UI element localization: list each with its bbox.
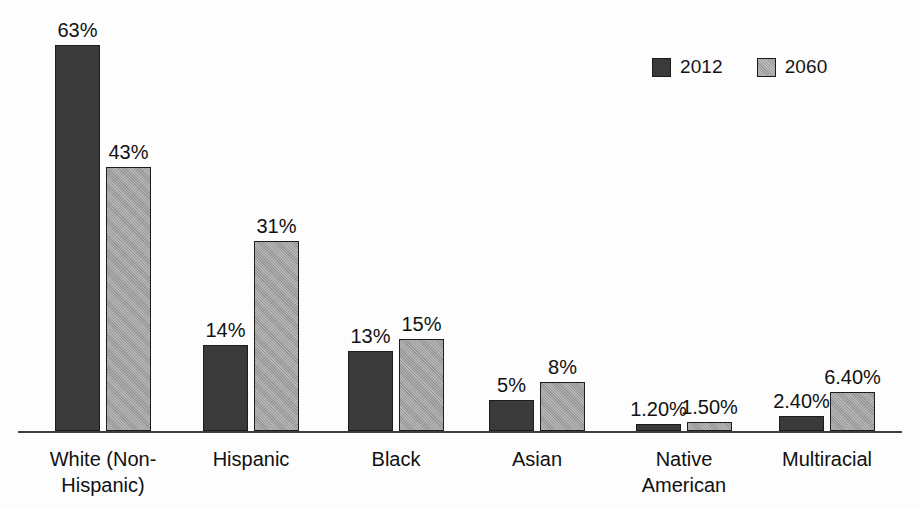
bar-2060-4 [687, 422, 732, 431]
bar-value-label: 63% [33, 20, 122, 40]
bar-2012-5 [779, 416, 824, 431]
bar-value-label: 6.40% [808, 367, 897, 387]
plot-area: 63%14%13%5%1.20%2.40%43%31%15%8%1.50%6.4… [0, 0, 920, 432]
bar-value-label: 15% [377, 314, 466, 334]
bar-2012-0 [55, 45, 100, 431]
bar-value-label: 1.50% [665, 397, 754, 417]
bar-2012-2 [348, 351, 393, 431]
bar-2060-0 [106, 167, 151, 431]
bar-chart: 2012 2060 63%14%13%5%1.20%2.40%43%31%15%… [0, 0, 920, 508]
bar-2012-4 [636, 424, 681, 431]
bar-2060-1 [254, 241, 299, 431]
bar-2012-1 [203, 345, 248, 431]
bar-value-label: 31% [232, 216, 321, 236]
bar-value-label: 8% [518, 357, 607, 377]
bar-value-label: 43% [84, 142, 173, 162]
bar-2060-5 [830, 392, 875, 431]
category-label-5: Multiracial [737, 446, 917, 472]
x-axis-baseline [18, 431, 902, 433]
bar-2060-3 [540, 382, 585, 431]
bar-2012-3 [489, 400, 534, 431]
bar-2060-2 [399, 339, 444, 431]
